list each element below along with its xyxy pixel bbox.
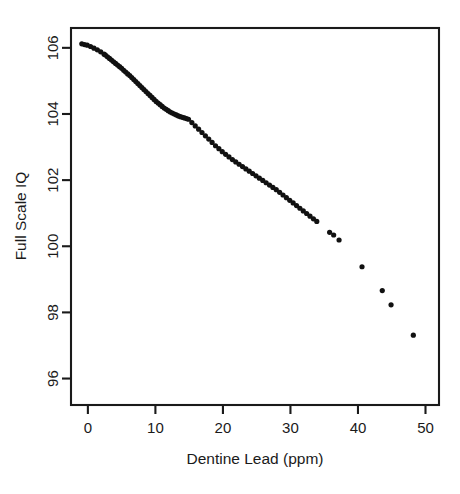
y-tick-label: 102 (44, 168, 61, 193)
data-point-series (79, 41, 416, 338)
data-point (314, 219, 319, 224)
x-axis-title: Dentine Lead (ppm) (187, 450, 324, 467)
y-tick-label: 100 (44, 234, 61, 259)
plot-frame (71, 28, 439, 405)
x-axis-ticks (88, 405, 426, 414)
plot-canvas: 01020304050 9698100102104106 Dentine Lea… (0, 0, 460, 494)
y-tick-label: 104 (44, 101, 61, 126)
x-tick-label: 50 (417, 419, 434, 436)
x-axis-tick-labels: 01020304050 (84, 419, 434, 436)
data-point (331, 232, 336, 237)
data-point (411, 333, 416, 338)
data-point (359, 264, 364, 269)
y-axis-ticks (62, 48, 71, 379)
scatter-plot-figure: 01020304050 9698100102104106 Dentine Lea… (0, 0, 460, 494)
x-tick-label: 10 (147, 419, 164, 436)
x-tick-label: 30 (282, 419, 299, 436)
x-tick-label: 40 (350, 419, 367, 436)
y-axis-title: Full Scale IQ (12, 172, 29, 261)
y-tick-label: 106 (44, 35, 61, 60)
y-tick-label: 98 (44, 304, 61, 321)
y-axis-tick-labels: 9698100102104106 (44, 35, 61, 387)
x-tick-label: 0 (84, 419, 92, 436)
data-point (336, 237, 341, 242)
y-tick-label: 96 (44, 370, 61, 387)
data-point (388, 302, 393, 307)
x-tick-label: 20 (215, 419, 232, 436)
data-point (380, 288, 385, 293)
